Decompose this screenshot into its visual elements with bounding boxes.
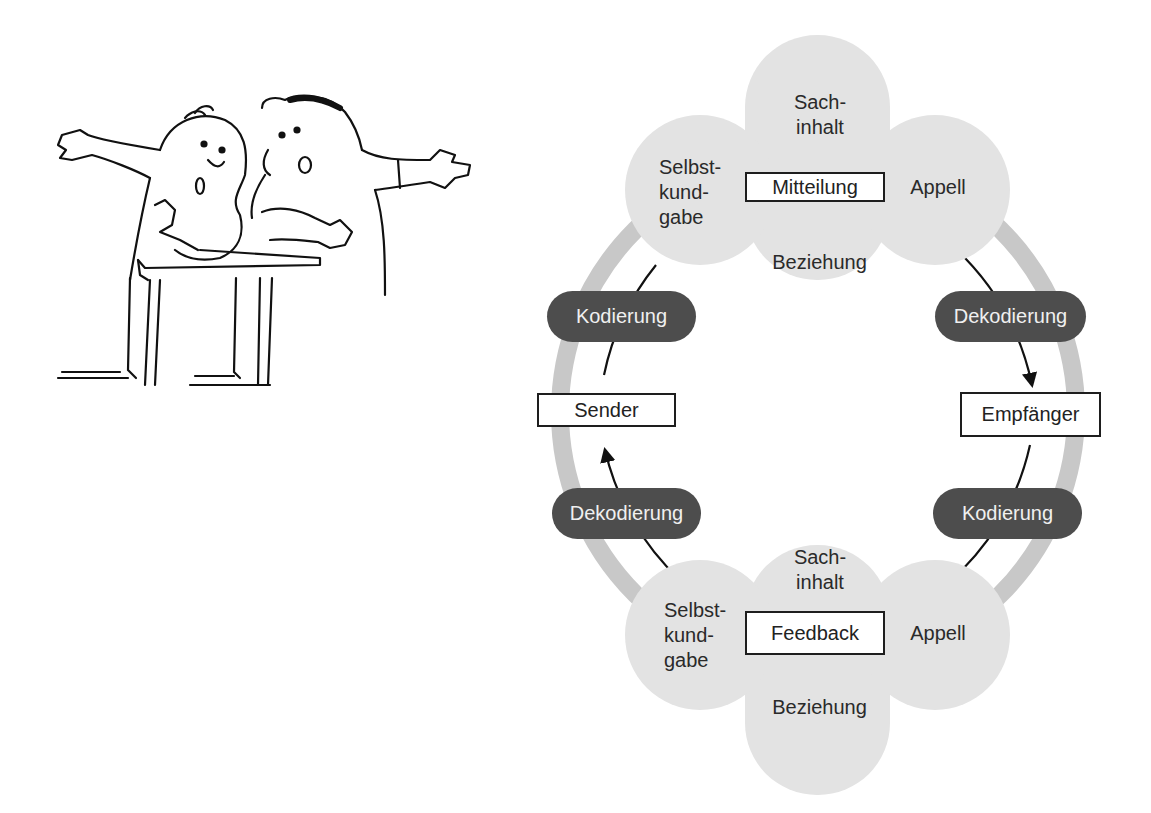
label-line: Sach- — [775, 545, 865, 570]
label-line: Selbst- — [659, 155, 739, 180]
encoding-pill-right-bottom: Kodierung — [933, 488, 1082, 539]
feedback-right-label: Appell — [898, 621, 978, 646]
sender-box: Sender — [537, 393, 676, 427]
decoding-pill-left-bottom: Dekodierung — [552, 488, 701, 539]
label-line: Selbst- — [664, 598, 744, 623]
message-left-label: Selbst- kund- gabe — [659, 155, 739, 230]
feedback-left-label: Selbst- kund- gabe — [664, 598, 744, 673]
message-right-label: Appell — [898, 175, 978, 200]
label-line: inhalt — [775, 115, 865, 140]
feedback-top-label: Sach- inhalt — [775, 545, 865, 595]
label-line: Sach- — [775, 90, 865, 115]
encoding-pill-left-top: Kodierung — [547, 291, 696, 342]
feedback-center-box: Feedback — [745, 611, 885, 655]
message-bottom-label: Beziehung — [757, 250, 882, 275]
label-line: kund- — [664, 623, 744, 648]
label-line: inhalt — [775, 570, 865, 595]
label-line: gabe — [664, 648, 744, 673]
decoding-pill-right-top: Dekodierung — [935, 291, 1086, 342]
message-center-box: Mitteilung — [745, 172, 885, 202]
label-line: gabe — [659, 205, 739, 230]
receiver-box: Empfänger — [960, 392, 1101, 437]
label-line: kund- — [659, 180, 739, 205]
feedback-bottom-label: Beziehung — [757, 695, 882, 720]
message-top-label: Sach- inhalt — [775, 90, 865, 140]
